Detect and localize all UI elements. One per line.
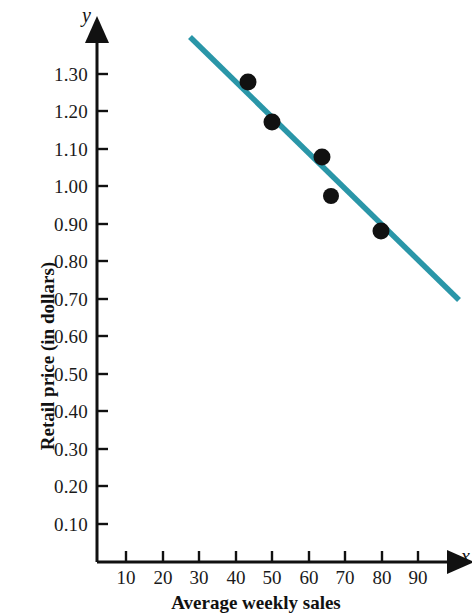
data-point bbox=[323, 188, 339, 204]
x-tick-label: 30 bbox=[182, 568, 216, 587]
y-tick-label: 1.00 bbox=[26, 177, 88, 196]
data-points bbox=[240, 74, 390, 240]
trend-line bbox=[190, 37, 459, 300]
data-point bbox=[264, 114, 281, 131]
x-tick-label: 20 bbox=[146, 568, 180, 587]
scatter-plot-figure: 1.30 1.20 1.10 1.00 0.90 0.80 0.70 0.60 … bbox=[0, 0, 472, 616]
y-tick-label: 1.20 bbox=[26, 102, 88, 121]
x-tick-label: 70 bbox=[328, 568, 362, 587]
y-axis-title: Retail price (in dollars) bbox=[37, 216, 59, 496]
data-point bbox=[373, 223, 390, 240]
data-point bbox=[240, 74, 257, 91]
y-axis-variable-label: y bbox=[82, 4, 91, 27]
data-point bbox=[314, 149, 331, 166]
x-tick-label: 50 bbox=[255, 568, 289, 587]
y-tick-label: 1.30 bbox=[26, 65, 88, 84]
x-tick-label: 90 bbox=[401, 568, 435, 587]
x-axis-title: Average weekly sales bbox=[96, 592, 416, 614]
y-tick-label: 1.10 bbox=[26, 140, 88, 159]
y-tick-label: 0.10 bbox=[26, 515, 88, 534]
x-tick-label: 40 bbox=[219, 568, 253, 587]
x-axis-ticks bbox=[126, 551, 418, 562]
x-tick-label: 60 bbox=[292, 568, 326, 587]
x-axis-variable-label: x bbox=[461, 545, 470, 568]
x-tick-label: 80 bbox=[365, 568, 399, 587]
y-axis-ticks bbox=[97, 74, 108, 524]
x-tick-label: 10 bbox=[109, 568, 143, 587]
